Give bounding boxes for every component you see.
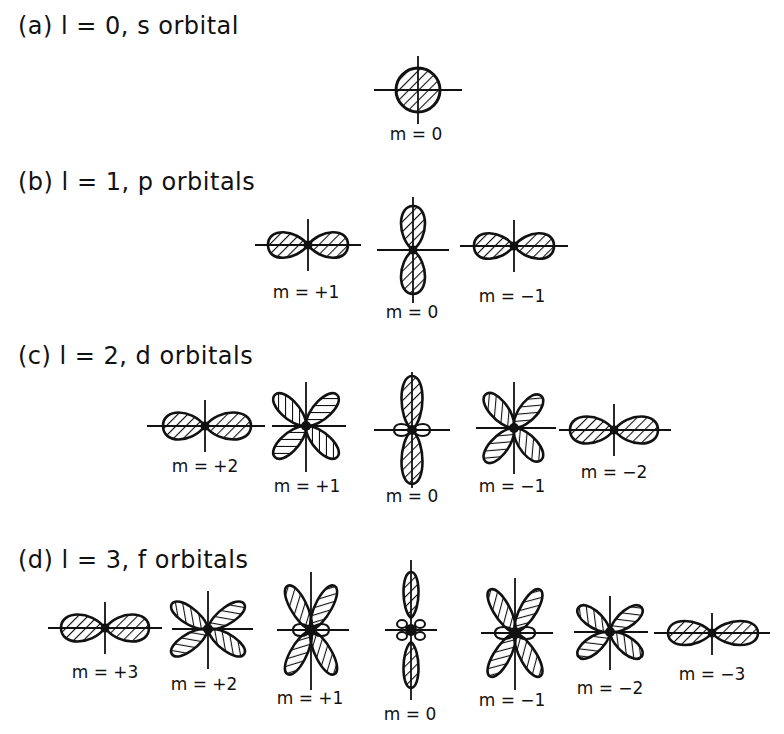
f-orbital-m+1-diagram bbox=[268, 570, 354, 690]
section-a-heading: (a) l = 0, s orbital bbox=[18, 12, 239, 40]
f-orbital-m-3-diagram bbox=[652, 597, 772, 669]
p-m-1-label: m = −1 bbox=[479, 286, 546, 306]
p-orbital-m+1-diagram bbox=[253, 210, 363, 280]
p-orbital-m-1-diagram bbox=[458, 211, 570, 281]
d-m0-label: m = 0 bbox=[386, 486, 438, 506]
p-orbital-m0-diagram bbox=[375, 195, 451, 305]
d-m+1-label: m = +1 bbox=[274, 476, 341, 496]
f-m-3-label: m = −3 bbox=[679, 664, 746, 684]
d-orbital-m+1-diagram bbox=[266, 370, 346, 482]
d-m-1-label: m = −1 bbox=[479, 476, 546, 496]
d-orbital-m-1-diagram bbox=[472, 372, 556, 484]
p-m0-label: m = 0 bbox=[386, 302, 438, 322]
f-orbital-m+3-diagram bbox=[46, 592, 164, 664]
d-orbital-m0-diagram bbox=[372, 370, 452, 490]
f-m-2-label: m = −2 bbox=[577, 678, 644, 698]
d-m+2-label: m = +2 bbox=[172, 456, 239, 476]
d-m-2-label: m = −2 bbox=[581, 462, 648, 482]
f-orbital-m0-diagram bbox=[383, 560, 439, 700]
p-m+1-label: m = +1 bbox=[273, 282, 340, 302]
s-m0-label: m = 0 bbox=[390, 124, 442, 144]
f-m+1-label: m = +1 bbox=[277, 688, 344, 708]
section-d-heading: (d) l = 3, f orbitals bbox=[18, 546, 248, 574]
d-orbital-m+2-diagram bbox=[145, 390, 265, 462]
f-orbital-m-1-diagram bbox=[470, 572, 560, 694]
section-c-heading: (c) l = 2, d orbitals bbox=[18, 342, 253, 370]
f-m-1-label: m = −1 bbox=[479, 690, 546, 710]
s-orbital-m0-diagram bbox=[370, 50, 466, 130]
f-m+3-label: m = +3 bbox=[72, 662, 139, 682]
section-b-heading: (b) l = 1, p orbitals bbox=[18, 168, 255, 196]
d-orbital-m-2-diagram bbox=[555, 394, 673, 466]
f-m0-label: m = 0 bbox=[384, 704, 436, 724]
f-orbital-m-2-diagram bbox=[565, 582, 655, 682]
f-m+2-label: m = +2 bbox=[171, 674, 238, 694]
f-orbital-m+2-diagram bbox=[163, 574, 253, 684]
